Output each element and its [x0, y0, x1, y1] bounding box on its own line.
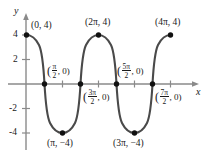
fraction-denominator: 2 — [52, 71, 58, 79]
fraction-numerator: 5π — [122, 63, 132, 72]
fraction-5pi-2: 5π 2 — [122, 63, 132, 80]
label-max-4pi: (4π, 4) — [155, 18, 180, 28]
paren-open-1: ( — [47, 65, 51, 77]
label-min-3pi: (3π, −4) — [113, 139, 144, 149]
y-tick-label-neg4: -4 — [9, 128, 17, 138]
label-zero-5pi-over-2: ( 5π 2 , 0) — [117, 63, 144, 80]
label-tail-1: , 0) — [58, 67, 70, 76]
paren-open-2: ( — [83, 91, 87, 103]
y-tick-label-2: 2 — [13, 55, 18, 65]
paren-open-4: ( — [155, 91, 159, 103]
y-tick-label-4: 4 — [13, 30, 18, 40]
y-tick-label-neg2: -2 — [9, 104, 17, 114]
point-max-0 — [24, 32, 29, 37]
fraction-3pi-2: 3π 2 — [88, 89, 98, 106]
label-min-pi: (π, −4) — [47, 139, 73, 149]
fraction-denominator: 2 — [123, 71, 129, 79]
label-max-origin: (0, 4) — [31, 21, 52, 31]
fraction-denominator: 2 — [89, 97, 95, 105]
point-max-4pi — [168, 32, 173, 37]
label-zero-7pi-over-2: ( 7π 2 , 0) — [155, 89, 182, 106]
fraction-denominator: 2 — [161, 97, 167, 105]
point-zero-5pi-2 — [114, 81, 119, 86]
point-zero-7pi-2 — [150, 81, 155, 86]
y-axis-label: y — [14, 6, 18, 16]
fraction-numerator: π — [52, 63, 58, 72]
fraction-pi-2: π 2 — [52, 63, 58, 80]
point-zero-pi-2 — [42, 81, 47, 86]
point-min-3pi — [132, 130, 137, 135]
label-max-2pi: (2π, 4) — [85, 18, 110, 28]
cosine-graph-figure: y x 4 2 -2 -4 (0, 4) (2π, 4) (4π, 4) (π,… — [0, 0, 208, 156]
label-zero-3pi-over-2: ( 3π 2 , 0) — [83, 89, 110, 106]
point-max-2pi — [96, 32, 101, 37]
point-zero-3pi-2 — [78, 81, 83, 86]
fraction-numerator: 7π — [160, 89, 170, 98]
label-tail-2: , 0) — [98, 93, 110, 102]
point-min-pi — [60, 130, 65, 135]
label-tail-4: , 0) — [170, 93, 182, 102]
fraction-7pi-2: 7π 2 — [160, 89, 170, 106]
x-axis-label: x — [196, 87, 200, 97]
label-zero-pi-over-2: ( π 2 , 0) — [47, 63, 70, 80]
label-tail-3: , 0) — [132, 67, 144, 76]
paren-open-3: ( — [117, 65, 121, 77]
fraction-numerator: 3π — [88, 89, 98, 98]
